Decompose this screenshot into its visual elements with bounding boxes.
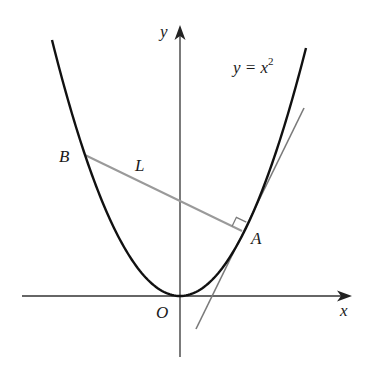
parabola-curve	[52, 40, 306, 296]
line-l-label: L	[134, 156, 144, 175]
parabola-normal-diagram: y x O B L A y = x2	[0, 0, 372, 377]
y-axis	[175, 25, 186, 357]
equation-lhs: y = x	[231, 58, 269, 77]
curve-equation-label: y = x2	[231, 55, 274, 77]
y-axis-label: y	[158, 22, 168, 41]
normal-line-l	[85, 155, 242, 231]
point-b-label: B	[59, 147, 70, 166]
svg-text:y = x2: y = x2	[231, 55, 274, 77]
origin-label: O	[156, 303, 168, 322]
x-axis-label: x	[339, 301, 348, 320]
equation-exponent: 2	[268, 55, 274, 67]
point-a-label: A	[250, 229, 262, 248]
right-angle-marker	[232, 217, 246, 226]
